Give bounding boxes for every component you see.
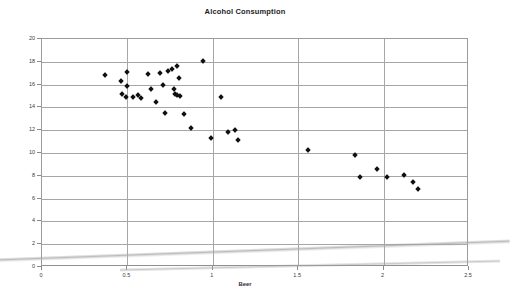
y-axis-tick-label: 16 (0, 81, 35, 87)
data-point (145, 71, 151, 77)
data-point (160, 82, 166, 88)
y-axis-tick-label: 6 (0, 195, 35, 201)
x-axis-tick (212, 266, 213, 270)
data-point (357, 174, 363, 180)
data-point (178, 93, 184, 99)
data-point (125, 69, 131, 75)
gridline-horizontal (42, 130, 467, 131)
data-point (138, 95, 144, 101)
gridline-horizontal (42, 221, 467, 222)
plot-area (41, 38, 468, 266)
x-axis-tick (41, 266, 42, 270)
data-point (118, 78, 124, 84)
data-point (410, 179, 416, 185)
gridline-horizontal (42, 62, 467, 63)
data-point (157, 70, 163, 76)
data-point (232, 127, 238, 133)
x-axis-title: Beer (0, 281, 490, 287)
x-axis-tick-label: 2.5 (453, 272, 483, 278)
y-axis-tick-label: 20 (0, 35, 35, 41)
data-point (352, 152, 358, 158)
x-axis-tick (468, 266, 469, 270)
data-point (176, 75, 182, 81)
data-point (306, 147, 312, 153)
x-axis-tick-label: 0.5 (111, 272, 141, 278)
data-point (181, 111, 187, 117)
data-point (154, 99, 160, 105)
x-axis-tick-label: 1 (197, 272, 227, 278)
gridline-horizontal (42, 244, 467, 245)
gridline-horizontal (42, 107, 467, 108)
gridline-horizontal (42, 199, 467, 200)
gridline-horizontal (42, 85, 467, 86)
y-axis-tick-label: 4 (0, 217, 35, 223)
data-point (225, 130, 231, 136)
gridline-vertical (298, 39, 299, 265)
data-point (169, 66, 175, 72)
data-point (148, 86, 154, 92)
x-axis-tick-label: 1.5 (282, 272, 312, 278)
data-point (218, 94, 224, 100)
gridline-horizontal (42, 153, 467, 154)
x-axis-tick (383, 266, 384, 270)
data-point (374, 166, 380, 172)
y-axis-tick-label: 0 (0, 263, 35, 269)
data-point (102, 73, 108, 79)
y-axis-tick-label: 8 (0, 172, 35, 178)
x-axis-tick-label: 0 (26, 272, 56, 278)
gridline-vertical (213, 39, 214, 265)
data-point (415, 187, 421, 193)
y-axis-tick-label: 2 (0, 240, 35, 246)
gridline-vertical (384, 39, 385, 265)
data-point (162, 110, 168, 116)
y-axis-tick-label: 14 (0, 103, 35, 109)
y-axis-tick-label: 18 (0, 58, 35, 64)
x-axis-tick-label: 2 (368, 272, 398, 278)
chart-title: Alcohol Consumption (0, 7, 490, 16)
x-axis-tick (126, 266, 127, 270)
data-point (236, 138, 242, 144)
y-axis-tick-label: 12 (0, 126, 35, 132)
y-axis-tick-label: 10 (0, 149, 35, 155)
x-axis-tick (297, 266, 298, 270)
